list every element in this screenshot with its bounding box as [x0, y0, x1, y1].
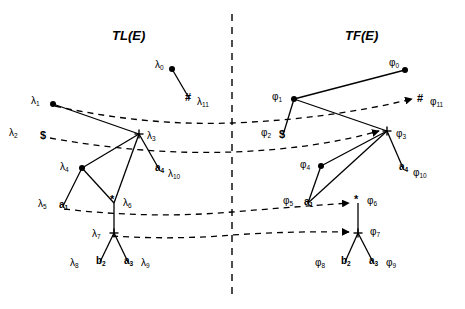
lambda-7-label: λ7 [92, 229, 101, 239]
panel-title-left: TL(E) [112, 28, 145, 43]
phi-4-label: φ4 [300, 160, 310, 170]
curve-lambda2-phi3 [50, 131, 379, 152]
lambda-4-dot-icon [79, 165, 85, 171]
lambda-8-label: λ8 [70, 258, 79, 268]
tree-edge-phi-1-phi-3 [294, 99, 387, 131]
figure-canvas: TL(E) TF(E) λ0#λ11λ1$λ2λ3a4λ10λ4a1λ5*λ6λ… [0, 0, 465, 309]
phi-10-glyph: a4 [399, 162, 408, 172]
lambda-6-label: λ6 [123, 198, 132, 208]
phi-8-glyph: b2 [341, 256, 351, 266]
phi-2-glyph: $ [279, 129, 285, 140]
lambda-9-glyph: a3 [124, 256, 133, 266]
lambda-11-glyph: # [185, 92, 191, 103]
phi-6-label: φ6 [367, 196, 377, 206]
phi-1-dot-icon [291, 96, 297, 102]
lambda-0-dot-icon [169, 66, 175, 72]
phi-2-label: φ2 [261, 128, 271, 138]
curve-lambda7-phi7 [112, 232, 349, 238]
lambda-10-glyph: a4 [155, 163, 164, 173]
lambda-0-label: λ0 [155, 60, 164, 70]
lambda-6-glyph: * [110, 194, 114, 205]
phi-3-label: φ3 [396, 129, 406, 139]
tree-edges [53, 69, 405, 262]
phi-11-glyph: # [417, 93, 423, 104]
phi-0-dot-icon [402, 67, 408, 73]
lambda-2-label: λ2 [9, 128, 18, 138]
phi-6-glyph: * [354, 194, 358, 205]
tree-edge-phi-1-phi-0 [294, 70, 405, 99]
tree-edge-lambda-3-lambda-4 [82, 134, 139, 168]
phi-9-glyph: a3 [369, 256, 378, 266]
phi-1-label: φ1 [272, 92, 282, 102]
phi-7-plus-icon [354, 229, 363, 238]
lambda-9-label: λ9 [141, 258, 150, 268]
lambda-4-label: λ4 [60, 162, 69, 172]
phi-4-dot-icon [318, 163, 324, 169]
lambda-1-dot-icon [50, 101, 56, 107]
lambda-3-label: λ3 [147, 131, 156, 141]
phi-8-label: φ8 [315, 258, 325, 268]
phi-9-label: φ9 [386, 258, 396, 268]
lambda-10-label: λ10 [168, 169, 180, 179]
tree-edge-lambda-3-lambda-6 [114, 134, 139, 203]
lambda-2-glyph: $ [40, 130, 46, 141]
phi-5-label: φ5 [283, 196, 293, 206]
phi-7-label: φ7 [370, 227, 380, 237]
phi-11-label: φ11 [430, 97, 443, 107]
lambda-3-plus-icon [135, 130, 144, 139]
lambda-1-label: λ1 [31, 96, 40, 106]
lambda-8-glyph: b2 [96, 256, 106, 266]
phi-10-label: φ10 [413, 168, 427, 178]
lambda-5-glyph: a1 [59, 200, 68, 210]
panel-title-right: TF(E) [345, 28, 378, 43]
phi-0-label: φ0 [389, 58, 399, 68]
curve-lambda1-phi11 [55, 99, 412, 123]
lambda-11-label: λ11 [197, 97, 209, 107]
phi-5-glyph: a1 [304, 197, 313, 207]
lambda-5-label: λ5 [38, 199, 47, 209]
